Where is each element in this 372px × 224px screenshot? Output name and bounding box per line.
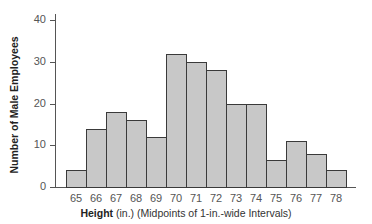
y-tick xyxy=(50,104,55,105)
bar-78 xyxy=(326,170,347,188)
x-tick-label: 73 xyxy=(226,192,246,204)
x-tick-label: 71 xyxy=(186,192,206,204)
y-tick-label: 20 xyxy=(24,97,46,109)
bar-77 xyxy=(306,154,327,188)
y-tick-label: 10 xyxy=(24,138,46,150)
y-tick xyxy=(50,20,55,21)
x-tick-label: 76 xyxy=(286,192,306,204)
x-tick-label: 74 xyxy=(246,192,266,204)
x-tick-label: 78 xyxy=(326,192,346,204)
bar-76 xyxy=(286,141,307,188)
x-tick-label: 67 xyxy=(106,192,126,204)
x-tick-label: 75 xyxy=(266,192,286,204)
x-tick-label: 72 xyxy=(206,192,226,204)
bar-72 xyxy=(206,70,227,188)
bar-73 xyxy=(226,104,247,188)
x-tick-label: 68 xyxy=(126,192,146,204)
bar-74 xyxy=(246,104,267,188)
bar-71 xyxy=(186,62,207,188)
x-axis-label: Height (in.) (Midpoints of 1-in.-wide In… xyxy=(0,207,372,219)
y-tick-label: 30 xyxy=(24,55,46,67)
y-axis-label: Number of Male Employees xyxy=(8,15,20,195)
x-axis-label-rest: (in.) (Midpoints of 1-in.-wide Intervals… xyxy=(113,207,292,219)
bar-69 xyxy=(146,137,167,188)
y-tick xyxy=(50,145,55,146)
x-axis-label-bold: Height xyxy=(80,207,113,219)
bar-68 xyxy=(126,120,147,188)
y-tick xyxy=(50,187,55,188)
bar-65 xyxy=(66,170,87,188)
x-tick-label: 69 xyxy=(146,192,166,204)
bar-67 xyxy=(106,112,127,188)
x-tick-label: 70 xyxy=(166,192,186,204)
bar-66 xyxy=(86,129,107,188)
x-tick-label: 77 xyxy=(306,192,326,204)
x-tick-label: 65 xyxy=(66,192,86,204)
y-tick-label: 0 xyxy=(24,180,46,192)
bar-70 xyxy=(166,54,187,188)
y-axis xyxy=(55,14,56,188)
y-tick xyxy=(50,62,55,63)
y-tick-label: 40 xyxy=(24,13,46,25)
x-tick-label: 66 xyxy=(86,192,106,204)
bar-75 xyxy=(266,160,287,188)
